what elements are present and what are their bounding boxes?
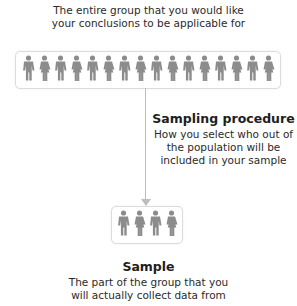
sampling-procedure-title: Sampling procedure — [150, 111, 297, 126]
person-male-icon — [181, 55, 196, 85]
person-female-icon — [197, 55, 212, 85]
person-female-icon — [69, 55, 84, 85]
population-box — [15, 51, 281, 89]
sample-description-line-1: The part of the group that you — [0, 276, 297, 289]
sampling-description-line-3: included in your sample — [150, 154, 297, 167]
sample-title: Sample — [0, 259, 297, 274]
person-male-icon — [148, 210, 163, 240]
person-male-icon — [85, 55, 100, 85]
person-female-icon — [101, 55, 116, 85]
sampling-description-line-2: the population will be — [150, 141, 297, 154]
person-male-icon — [117, 55, 132, 85]
person-female-icon — [229, 55, 244, 85]
person-female-icon — [133, 55, 148, 85]
person-male-icon — [149, 55, 164, 85]
person-female-icon — [37, 55, 52, 85]
sample-description-line-2: will actually collect data from — [0, 289, 297, 302]
sample-box — [111, 206, 183, 244]
arrow-down-icon — [141, 199, 151, 206]
population-description: The entire group that you would like you… — [0, 4, 297, 30]
sample-description: The part of the group that you will actu… — [0, 276, 297, 302]
sampling-procedure-description: How you select who out of the population… — [150, 128, 297, 167]
population-description-line-2: your conclusions to be applicable for — [0, 17, 297, 30]
person-female-icon — [132, 210, 147, 240]
person-female-icon — [261, 55, 276, 85]
connector-line — [145, 88, 146, 200]
person-male-icon — [213, 55, 228, 85]
person-male-icon — [116, 210, 131, 240]
sampling-description-line-1: How you select who out of — [150, 128, 297, 141]
population-description-line-1: The entire group that you would like — [0, 4, 297, 17]
person-male-icon — [21, 55, 36, 85]
person-female-icon — [164, 210, 179, 240]
person-male-icon — [53, 55, 68, 85]
person-female-icon — [165, 55, 180, 85]
person-male-icon — [245, 55, 260, 85]
